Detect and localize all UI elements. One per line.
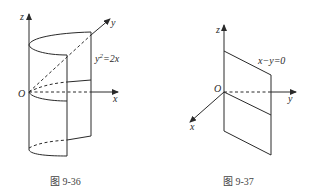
origin-label: O — [214, 83, 221, 94]
plane-bottom-edge — [224, 131, 271, 155]
x-axis-label: x — [112, 93, 118, 104]
bottom-parabola-hidden — [29, 140, 67, 148]
figure-caption: 图 9-36 — [50, 176, 81, 187]
y-axis-label: y — [110, 17, 116, 28]
equation-rest: =2x — [103, 53, 120, 64]
z-axis-label: z — [215, 24, 220, 35]
equation-label: y2=2x — [94, 52, 120, 64]
figure-caption: 图 9-37 — [223, 176, 254, 187]
figures-canvas: z y x O y2=2x 图 9-36 z y x O x−y=0 图 9-3… — [0, 0, 311, 193]
y-axis-hidden — [29, 35, 91, 92]
origin-label: O — [18, 88, 25, 99]
x-axis-label: x — [189, 121, 195, 132]
y-axis-line — [91, 19, 110, 35]
x-axis-line — [190, 92, 224, 122]
y-axis-label: y — [287, 93, 293, 104]
figure-9-37: z y x O x−y=0 图 9-37 — [189, 24, 296, 187]
equation-label: x−y=0 — [257, 55, 285, 66]
bottom-parabola-visible — [67, 136, 91, 140]
middle-parabola-visible — [67, 80, 91, 82]
figure-9-36: z y x O y2=2x 图 9-36 — [18, 11, 120, 187]
bottom-parabola-front — [29, 150, 67, 156]
middle-parabola-lower — [29, 92, 67, 101]
z-axis-label: z — [19, 11, 24, 22]
plane-middle-trace — [224, 92, 271, 115]
